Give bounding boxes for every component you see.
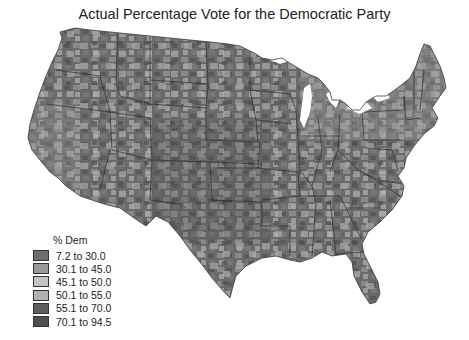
legend-label: 50.1 to 55.0 (56, 289, 111, 301)
legend-label: 30.1 to 45.0 (56, 263, 111, 275)
legend-title: % Dem (53, 234, 111, 246)
legend-item: 7.2 to 30.0 (33, 249, 111, 262)
legend-swatch (33, 276, 49, 287)
legend-item: 50.1 to 55.0 (33, 289, 111, 302)
legend-swatch (33, 290, 49, 301)
legend-item: 30.1 to 45.0 (33, 262, 111, 275)
legend-item: 70.1 to 94.5 (33, 315, 111, 328)
legend-label: 7.2 to 30.0 (56, 250, 106, 262)
legend-swatch (33, 316, 49, 327)
legend-label: 55.1 to 70.0 (56, 302, 111, 314)
legend-label: 45.1 to 50.0 (56, 276, 111, 288)
legend-swatch (33, 263, 49, 274)
legend-swatch (33, 303, 49, 314)
legend: % Dem 7.2 to 30.0 30.1 to 45.0 45.1 to 5… (33, 234, 111, 328)
legend-label: 70.1 to 94.5 (56, 316, 111, 328)
legend-item: 55.1 to 70.0 (33, 302, 111, 315)
legend-swatch (33, 250, 49, 261)
legend-item: 45.1 to 50.0 (33, 275, 111, 288)
